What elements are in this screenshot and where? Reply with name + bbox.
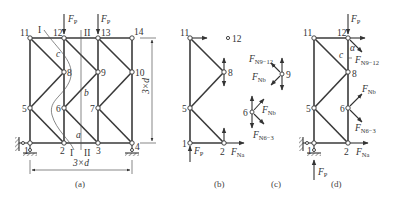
svg-text:FP: FP xyxy=(100,14,111,25)
svg-text:b: b xyxy=(84,88,89,98)
svg-text:6: 6 xyxy=(56,104,61,114)
section-I-curve xyxy=(44,30,74,150)
svg-text:2: 2 xyxy=(220,147,225,157)
panel-b: 11 12 8 5 1 2 FP FNa (b) xyxy=(180,28,245,189)
svg-text:6: 6 xyxy=(243,108,248,118)
svg-text:4: 4 xyxy=(135,142,140,152)
svg-text:FP: FP xyxy=(193,146,204,157)
svg-text:9: 9 xyxy=(286,70,291,80)
svg-text:7: 7 xyxy=(90,104,95,114)
svg-text:6: 6 xyxy=(340,104,345,114)
svg-text:11: 11 xyxy=(180,28,189,38)
svg-text:5: 5 xyxy=(306,104,311,114)
svg-text:II: II xyxy=(84,28,90,38)
svg-text:11: 11 xyxy=(20,28,29,38)
svg-text:5: 5 xyxy=(182,104,187,114)
svg-text:1: 1 xyxy=(24,146,29,156)
svg-text:13: 13 xyxy=(101,28,111,38)
caption-b: (b) xyxy=(214,179,225,189)
svg-text:8: 8 xyxy=(67,68,72,78)
panel-c: 9 FN9−12 FNb 6 FNb FN6−3 (c) xyxy=(243,54,291,189)
svg-text:8: 8 xyxy=(352,69,357,79)
svg-text:a: a xyxy=(76,130,81,140)
svg-text:3: 3 xyxy=(96,146,101,156)
svg-text:I: I xyxy=(38,25,41,35)
svg-text:9: 9 xyxy=(101,68,106,78)
svg-text:2: 2 xyxy=(344,147,349,157)
svg-text:FNb: FNb xyxy=(261,105,276,116)
svg-text:1: 1 xyxy=(182,139,187,149)
svg-text:FNb: FNb xyxy=(361,84,376,95)
svg-text:8: 8 xyxy=(228,68,233,78)
svg-text:12: 12 xyxy=(232,34,242,44)
svg-text:2: 2 xyxy=(60,146,65,156)
svg-text:10: 10 xyxy=(135,68,145,78)
svg-text:12: 12 xyxy=(337,28,347,38)
svg-text:FNb: FNb xyxy=(251,72,266,83)
svg-text:FNa: FNa xyxy=(230,147,245,158)
svg-text:c: c xyxy=(339,50,344,60)
caption-c: (c) xyxy=(271,179,281,189)
svg-text:I: I xyxy=(70,148,73,158)
svg-text:3×d: 3×d xyxy=(141,78,151,95)
svg-text:FNa: FNa xyxy=(355,147,370,158)
svg-text:FN9−12: FN9−12 xyxy=(248,54,273,65)
panel-a: FP FP 11 12 13 14 8 9 10 5 6 7 1 2 3 4 I… xyxy=(15,14,156,189)
caption-d: (d) xyxy=(331,179,342,189)
svg-text:14: 14 xyxy=(134,27,144,37)
svg-text:11: 11 xyxy=(303,28,312,38)
svg-text:FP: FP xyxy=(350,14,361,25)
svg-text:FN6−3: FN6−3 xyxy=(354,123,376,134)
svg-text:FN6−3: FN6−3 xyxy=(252,130,274,141)
svg-text:FP: FP xyxy=(317,167,328,178)
svg-text:FP: FP xyxy=(67,14,78,25)
svg-text:FN9−12: FN9−12 xyxy=(354,55,379,66)
panel-d: 11 12 8 5 6 1 2 FP α c FN9−12 FNb FN6−3 … xyxy=(299,14,379,189)
svg-text:3×d: 3×d xyxy=(72,158,89,168)
svg-text:1: 1 xyxy=(307,146,312,156)
svg-text:12: 12 xyxy=(53,28,63,38)
svg-text:5: 5 xyxy=(22,104,27,114)
caption-a: (a) xyxy=(75,179,85,189)
truss-figure: FP FP 11 12 13 14 8 9 10 5 6 7 1 2 3 4 I… xyxy=(0,0,394,205)
svg-text:II: II xyxy=(84,148,90,158)
